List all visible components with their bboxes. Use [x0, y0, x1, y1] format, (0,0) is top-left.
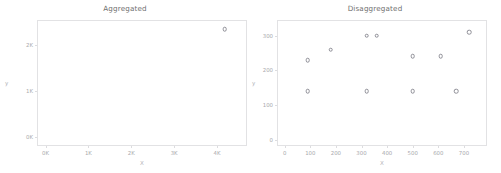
y-tick-mark-aggregated-2: [35, 45, 37, 46]
x-tick-label-disaggregated-1: 100: [305, 150, 315, 156]
y-tick-mark-disaggregated-2: [275, 70, 277, 71]
y-tick-mark-disaggregated-1: [275, 105, 277, 106]
data-point: [222, 27, 227, 32]
x-tick-label-aggregated-1: 1K: [85, 150, 92, 156]
x-tick-mark-disaggregated-5: [413, 146, 414, 148]
data-point: [375, 33, 380, 38]
x-tick-mark-disaggregated-3: [362, 146, 363, 148]
panel-aggregated: Aggregated 0K1K2K0K1K2K3K4KXy: [0, 0, 250, 173]
x-tick-label-disaggregated-3: 300: [356, 150, 366, 156]
x-axis-title-aggregated: X: [140, 160, 144, 166]
x-tick-mark-disaggregated-6: [438, 146, 439, 148]
x-tick-mark-aggregated-4: [217, 146, 218, 148]
x-tick-label-aggregated-2: 2K: [128, 150, 135, 156]
y-tick-label-aggregated-0: 0K: [26, 134, 33, 140]
x-tick-mark-aggregated-1: [88, 146, 89, 148]
x-tick-label-aggregated-4: 4K: [214, 150, 221, 156]
y-tick-mark-aggregated-1: [35, 91, 37, 92]
x-tick-label-disaggregated-5: 500: [408, 150, 418, 156]
panel-title-disaggregated: Disaggregated: [250, 4, 500, 13]
x-tick-mark-disaggregated-4: [387, 146, 388, 148]
x-tick-mark-aggregated-0: [46, 146, 47, 148]
y-tick-mark-aggregated-0: [35, 137, 37, 138]
x-tick-label-disaggregated-4: 400: [382, 150, 392, 156]
plot-area-aggregated: [37, 20, 247, 146]
data-point: [410, 54, 415, 59]
x-tick-label-aggregated-3: 3K: [171, 150, 178, 156]
y-tick-label-aggregated-2: 2K: [26, 42, 33, 48]
y-tick-label-disaggregated-2: 200: [263, 67, 273, 73]
panel-title-aggregated: Aggregated: [0, 4, 250, 13]
y-tick-mark-disaggregated-0: [275, 140, 277, 141]
x-tick-label-aggregated-0: 0K: [42, 150, 49, 156]
y-tick-label-disaggregated-3: 300: [263, 33, 273, 39]
x-tick-mark-aggregated-2: [131, 146, 132, 148]
x-tick-label-disaggregated-6: 600: [433, 150, 443, 156]
data-point: [305, 89, 310, 94]
x-tick-mark-disaggregated-2: [336, 146, 337, 148]
y-tick-label-disaggregated-0: 0: [270, 137, 273, 143]
x-tick-mark-disaggregated-1: [310, 146, 311, 148]
scatter-figure: Aggregated 0K1K2K0K1K2K3K4KXy Disaggrega…: [0, 0, 501, 173]
data-point: [364, 33, 369, 38]
x-tick-label-disaggregated-7: 700: [459, 150, 469, 156]
panel-disaggregated: Disaggregated 01002003000100200300400500…: [250, 0, 500, 173]
y-tick-label-aggregated-1: 1K: [26, 88, 33, 94]
data-point: [439, 54, 444, 59]
data-point: [328, 47, 333, 52]
data-point: [454, 89, 459, 94]
x-tick-label-disaggregated-0: 0: [283, 150, 286, 156]
x-tick-mark-aggregated-3: [174, 146, 175, 148]
x-tick-mark-disaggregated-7: [464, 146, 465, 148]
data-point: [410, 89, 415, 94]
x-tick-label-disaggregated-2: 200: [331, 150, 341, 156]
y-tick-mark-disaggregated-3: [275, 36, 277, 37]
x-axis-title-disaggregated: X: [380, 160, 384, 166]
data-point: [364, 89, 369, 94]
y-axis-title-aggregated: y: [5, 80, 8, 86]
data-point: [467, 30, 472, 35]
y-axis-title-disaggregated: y: [252, 80, 255, 86]
plot-area-disaggregated: [277, 20, 487, 146]
y-tick-label-disaggregated-1: 100: [263, 102, 273, 108]
data-point: [305, 58, 310, 63]
x-tick-mark-disaggregated-0: [285, 146, 286, 148]
